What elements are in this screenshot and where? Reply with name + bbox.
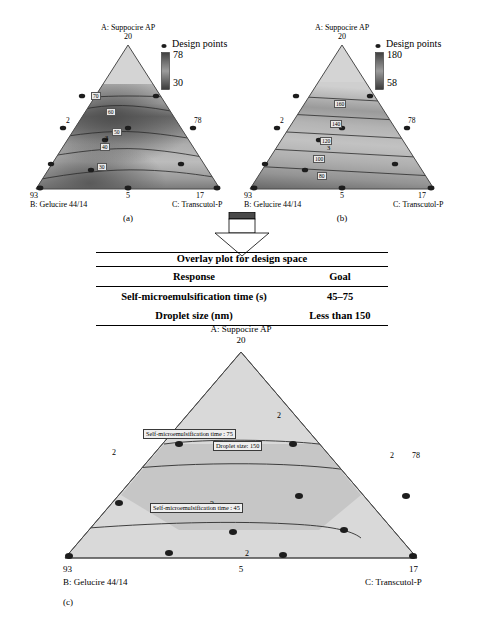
plot-c-tick-right-outer: 78 bbox=[412, 452, 420, 460]
figure-root: A: Suppocire AP 20 bbox=[0, 0, 482, 623]
plot-b-replicate-label: 3 bbox=[327, 144, 330, 151]
plot-a-contour-label-30: 30 bbox=[97, 163, 107, 171]
plot-b-contour-label-100: 100 bbox=[313, 155, 325, 163]
plot-c-left-value: 93 bbox=[63, 565, 72, 574]
plot-b-scale-max: 180 bbox=[387, 50, 402, 60]
table-header-response: Response bbox=[96, 267, 292, 286]
plot-b-scale-min: 58 bbox=[387, 78, 397, 88]
plot-a-contour-label-60: 60 bbox=[106, 108, 116, 116]
plot-c-right-value: 17 bbox=[409, 565, 418, 574]
design-point-icon bbox=[160, 42, 168, 50]
plot-c-tick-left: 2 bbox=[112, 449, 116, 457]
plot-c-apex-value: 20 bbox=[237, 336, 246, 345]
plot-a-apex-label: A: Suppocire AP bbox=[101, 24, 155, 32]
plot-a-right-value: 17 bbox=[196, 192, 204, 200]
plot-c-annotation-droplet-150: Droplet size: 150 bbox=[213, 441, 262, 451]
plot-a-left-value: 93 bbox=[30, 192, 38, 200]
table-row: Droplet size (nm) Less than 150 bbox=[96, 306, 388, 325]
plot-b-contour-label-160: 160 bbox=[334, 100, 346, 108]
plot-c-tick-bottom: 2 bbox=[245, 550, 249, 558]
plot-a-apex-value: 20 bbox=[124, 33, 132, 41]
plot-c-tick-right-inner: 2 bbox=[390, 452, 394, 460]
row-1-goal: 45–75 bbox=[292, 287, 388, 306]
plot-c-annotation-smt-75: Self-microemulsification time : 75 bbox=[143, 429, 236, 439]
plot-a-bottom-value: 5 bbox=[126, 192, 130, 200]
plot-a-colorbar bbox=[161, 52, 170, 90]
plot-a-contour-label-50: 50 bbox=[112, 128, 122, 136]
plot-b-left-tick: 2 bbox=[280, 117, 284, 125]
plot-b-legend-title: Design points bbox=[386, 39, 441, 49]
plot-c-apex-label: A: Suppocire AP bbox=[210, 325, 271, 334]
table-header-row: Response Goal bbox=[96, 267, 388, 286]
plot-b-right-label: C: Transcutol-P bbox=[393, 201, 443, 209]
plot-b-caption: (b) bbox=[337, 214, 348, 223]
plot-a-left-label: B: Gelucire 44/14 bbox=[30, 201, 87, 209]
plot-c-tick-top: 2 bbox=[277, 412, 281, 420]
plot-a-legend-title: Design points bbox=[172, 39, 227, 49]
plot-b-left-label: B: Gelucire 44/14 bbox=[244, 201, 301, 209]
table-header-goal: Goal bbox=[292, 267, 388, 286]
plot-a-contour-label-70: 70 bbox=[91, 92, 101, 100]
plot-c-right-label: C: Transcutol-P bbox=[365, 578, 422, 587]
plot-b-colorbar bbox=[375, 52, 384, 90]
plot-c-left-label: B: Gelucire 44/14 bbox=[63, 578, 128, 587]
design-point-icon bbox=[374, 42, 382, 50]
overlay-table-title: Overlay plot for design space bbox=[96, 253, 388, 266]
plot-a-left-tick: 2 bbox=[66, 117, 70, 125]
plot-a-right-label: C: Transcutol-P bbox=[172, 201, 222, 209]
plot-b-contour-label-80: 80 bbox=[317, 172, 327, 180]
plot-c-caption: (c) bbox=[63, 598, 73, 607]
plot-a-caption: (a) bbox=[123, 214, 133, 223]
plot-a-right-tick: 78 bbox=[194, 117, 202, 125]
table-row: Self-microemulsification time (s) 45–75 bbox=[96, 287, 388, 306]
plot-a-scale-min: 30 bbox=[173, 78, 183, 88]
plot-c-bottom-value: 5 bbox=[239, 565, 244, 574]
plot-b-right-tick: 78 bbox=[408, 117, 416, 125]
plot-b-apex-value: 20 bbox=[338, 33, 346, 41]
plot-b-left-value: 93 bbox=[244, 192, 252, 200]
plot-c-annotation-smt-45: Self-microemulsification time : 45 bbox=[150, 503, 243, 513]
plot-b-bottom-value: 5 bbox=[340, 192, 344, 200]
row-2-goal: Less than 150 bbox=[292, 306, 388, 325]
plot-b-apex-label: A: Suppocire AP bbox=[315, 24, 369, 32]
plot-a-replicate-label: 3 bbox=[105, 134, 108, 141]
design-space-goals-table: Overlay plot for design space Response G… bbox=[96, 252, 388, 326]
plot-b-contour-label-140: 140 bbox=[330, 120, 342, 128]
row-2-response: Droplet size (nm) bbox=[96, 306, 292, 325]
plot-a-scale-max: 78 bbox=[173, 50, 183, 60]
plot-a-contour-label-40: 40 bbox=[100, 143, 110, 151]
plot-b-right-value: 17 bbox=[418, 192, 426, 200]
row-1-response: Self-microemulsification time (s) bbox=[96, 287, 292, 306]
